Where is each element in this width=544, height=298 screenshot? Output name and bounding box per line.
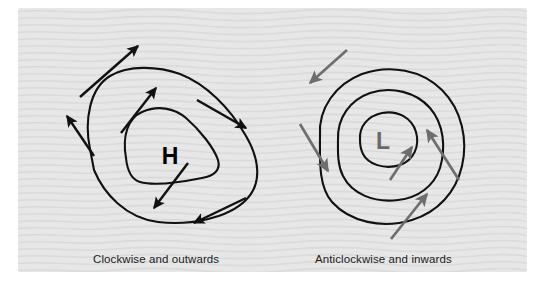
- caption-anticlockwise-inwards: Anticlockwise and inwards: [315, 253, 452, 265]
- diagram-panel: H L: [18, 8, 527, 272]
- low-pressure-label: L: [376, 128, 390, 154]
- figure-root: H L: [0, 0, 544, 298]
- panel-texture: [18, 8, 527, 272]
- high-pressure-label: H: [162, 143, 179, 169]
- caption-clockwise-outwards: Clockwise and outwards: [93, 253, 219, 265]
- figure-footnote: [19, 288, 531, 298]
- diagram-canvas: H L: [18, 8, 527, 272]
